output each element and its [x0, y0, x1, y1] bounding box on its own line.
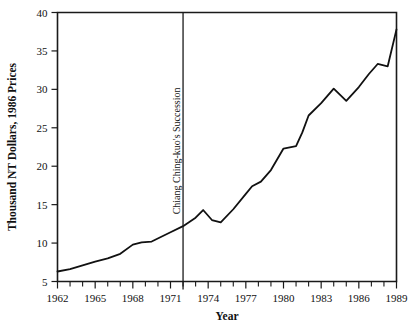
y-tick-label-15: 15 [37, 199, 49, 211]
y-tick-label-5: 5 [42, 276, 48, 288]
x-tick-label-1965: 1965 [84, 292, 107, 304]
y-tick-label-25: 25 [37, 122, 49, 134]
x-axis: 1962196519681971197419771980198319861989 [47, 282, 409, 304]
annotation-chiang-ching-kuo-succession: Chiang Ching-kuo's Succession [171, 13, 183, 290]
x-tick-label-1968: 1968 [122, 292, 145, 304]
data-series-group [58, 29, 397, 271]
x-tick-label-1971: 1971 [160, 292, 182, 304]
y-tick-label-10: 10 [37, 237, 49, 249]
x-tick-label-1980: 1980 [273, 292, 296, 304]
x-tick-label-1962: 1962 [47, 292, 69, 304]
y-axis-title: Thousand NT Dollars, 1986 Prices [6, 62, 18, 231]
y-axis: 510152025303540 [37, 7, 58, 288]
y-tick-label-40: 40 [37, 7, 49, 19]
y-tick-label-35: 35 [37, 45, 49, 57]
chart-container: 510152025303540 196219651968197119741977… [0, 0, 413, 326]
x-tick-label-1986: 1986 [348, 292, 371, 304]
x-tick-label-1977: 1977 [235, 292, 258, 304]
y-tick-label-30: 30 [37, 83, 49, 95]
plot-frame [58, 13, 397, 282]
x-tick-label-1983: 1983 [310, 292, 333, 304]
x-tick-label-1974: 1974 [197, 292, 220, 304]
x-tick-label-1989: 1989 [386, 292, 409, 304]
x-axis-title: Year [216, 310, 239, 322]
line-chart: 510152025303540 196219651968197119741977… [0, 0, 413, 326]
y-tick-label-20: 20 [37, 160, 49, 172]
event-label: Chiang Ching-kuo's Succession [171, 88, 182, 215]
